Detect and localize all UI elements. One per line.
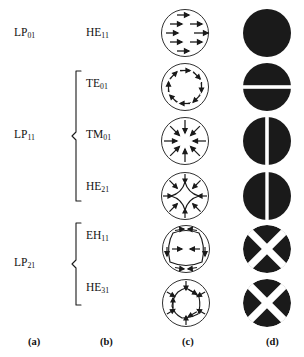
vector-mode-te01: TE01 [86, 78, 108, 90]
field-pattern-he21 [159, 170, 211, 222]
intensity-pattern-tm01 [241, 115, 293, 167]
brace-lp11 [68, 66, 84, 206]
column-caption-a: (a) [28, 336, 40, 347]
field-pattern-he31 [159, 276, 213, 330]
intensity-pattern-te01 [241, 61, 293, 113]
field-pattern-eh11 [159, 222, 213, 276]
intensity-pattern-he31 [241, 277, 293, 329]
lp-mode-lp11: LP11 [14, 129, 35, 141]
field-pattern-he11 [159, 7, 211, 59]
column-caption-d: (d) [266, 336, 279, 347]
brace-lp21 [68, 219, 84, 309]
column-caption-c: (c) [182, 336, 194, 347]
lp-mode-lp21: LP21 [14, 257, 35, 269]
vector-mode-he11: HE11 [86, 27, 109, 39]
intensity-pattern-eh11 [241, 223, 293, 275]
vector-mode-eh11: EH11 [86, 230, 109, 242]
vector-mode-tm01: TM01 [86, 129, 111, 141]
lp-mode-lp01: LP01 [14, 27, 35, 39]
field-pattern-tm01 [159, 115, 211, 167]
intensity-pattern-he11 [241, 7, 293, 59]
vector-mode-he31: HE31 [86, 282, 109, 294]
column-caption-b: (b) [100, 336, 113, 347]
intensity-pattern-he21 [241, 170, 293, 222]
vector-mode-he21: HE21 [86, 181, 109, 193]
field-pattern-te01 [159, 61, 211, 113]
mode-chart-figure: LP01 LP11 LP21 HE11 TE01 TM01 HE21 EH11 … [0, 0, 304, 357]
